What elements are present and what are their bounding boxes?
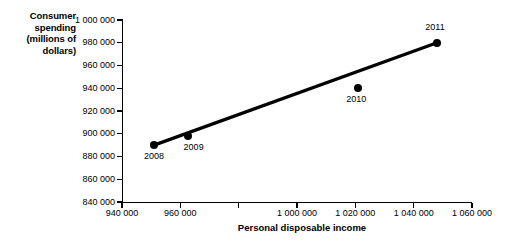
y-axis-tick-label: 900 000 — [57, 128, 115, 138]
y-axis-tick-label: 860 000 — [57, 174, 115, 184]
x-axis-tick-label: 960 000 — [145, 208, 215, 218]
data-point-label: 2011 — [405, 22, 465, 32]
y-axis-tick-label-text: 980 000 — [61, 37, 115, 47]
data-point-label: 2009 — [164, 142, 224, 152]
data-point[interactable] — [354, 84, 362, 92]
data-point-label: 2008 — [124, 151, 184, 161]
y-axis-tick-label: 960 000 — [57, 60, 115, 70]
y-axis-tick-label: 840 000 — [57, 197, 115, 207]
y-axis-tick-label-text: 940 000 — [61, 83, 115, 93]
data-point[interactable] — [150, 141, 158, 149]
y-axis-tick-mark — [117, 65, 122, 66]
y-axis-tick-mark — [117, 133, 122, 134]
y-axis-tick-mark — [117, 19, 122, 20]
x-axis-tick-mark — [238, 203, 239, 208]
y-axis-line — [122, 19, 123, 203]
data-point-label: 2010 — [326, 94, 386, 104]
y-axis-tick-label-text: 880 000 — [61, 151, 115, 161]
y-axis-tick-mark — [117, 179, 122, 180]
y-axis-tick-label: 920 000 — [57, 106, 115, 116]
y-axis-tick-mark — [117, 110, 122, 111]
consumer-spending-scatter-chart: Consumerspending(millions ofdollars) 840… — [0, 0, 508, 242]
y-axis-tick-label-text: 860 000 — [61, 174, 115, 184]
y-axis-tick-label-text: 960 000 — [61, 60, 115, 70]
y-axis-tick-label: 1 000 000 — [57, 15, 115, 25]
x-axis-tick-label: 1 060 000 — [437, 208, 507, 218]
trend-line — [154, 43, 437, 145]
y-axis-tick-label-text: 1 000 000 — [61, 15, 115, 25]
data-point[interactable] — [184, 132, 192, 140]
y-axis-tick-label-text: 840 000 — [61, 197, 115, 207]
y-axis-tick-mark — [117, 156, 122, 157]
y-axis-tick-label-text: 920 000 — [61, 106, 115, 116]
y-axis-tick-label: 880 000 — [57, 151, 115, 161]
y-axis-tick-label: 940 000 — [57, 83, 115, 93]
y-axis-tick-label: 980 000 — [57, 37, 115, 47]
y-axis-tick-mark — [117, 88, 122, 89]
y-axis-tick-mark — [117, 42, 122, 43]
x-axis-title: Personal disposable income — [122, 222, 482, 233]
data-point[interactable] — [433, 39, 441, 47]
y-axis-tick-label-text: 900 000 — [61, 128, 115, 138]
